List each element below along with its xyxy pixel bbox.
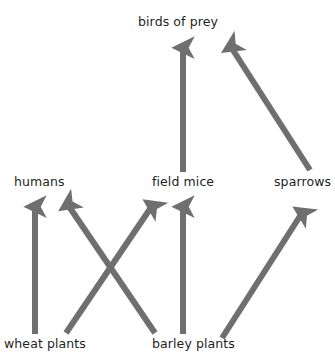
node-label-barley-plants: barley plants	[152, 338, 235, 351]
arrow-barley-plants-to-sparrows	[222, 213, 302, 338]
food-web-diagram: birds of prey humans field mice sparrows…	[0, 0, 335, 360]
node-label-field-mice: field mice	[152, 176, 214, 189]
arrow-sparrows-to-birds-of-prey	[231, 47, 310, 170]
node-label-wheat-plants: wheat plants	[4, 338, 86, 351]
node-label-humans: humans	[14, 176, 65, 189]
node-label-sparrows: sparrows	[274, 176, 331, 189]
node-label-birds-of-prey: birds of prey	[138, 16, 218, 29]
